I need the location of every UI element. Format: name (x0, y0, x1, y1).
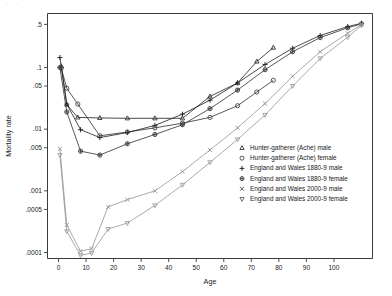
y-tick-label: .5 (37, 21, 43, 28)
x-tick-label: 20 (110, 264, 118, 271)
data-point-marker (318, 36, 322, 40)
legend-item: Hunter-gatherer (Ache) male (240, 144, 332, 152)
x-tick-label: 30 (137, 264, 145, 271)
x-tick-label: 0 (57, 264, 61, 271)
x-tick-label: 40 (165, 264, 173, 271)
x-axis-tick-labels: 0102030405060708090100 (57, 264, 340, 271)
x-axis-title: Age (204, 277, 217, 286)
y-tick-label: .05 (33, 82, 42, 89)
data-point-marker (57, 55, 62, 60)
y-tick-label: .1 (37, 64, 43, 71)
data-point-marker (207, 98, 212, 103)
data-point-marker (291, 74, 295, 78)
data-point-marker (180, 170, 184, 174)
data-point-marker (180, 123, 184, 127)
data-point-marker (240, 187, 244, 191)
legend-item: England and Wales 2000-9 female (240, 195, 348, 203)
legend-label: Hunter-gatherer (Ache) female (250, 154, 337, 162)
data-point-marker (240, 177, 244, 181)
figure-container: · · .5.1.05.01.005.001.0005.0001 0102030… (0, 0, 392, 296)
y-axis-tick-marks (44, 24, 48, 252)
data-point-marker (65, 110, 69, 114)
y-tick-label: .005 (29, 144, 42, 151)
series-line (60, 24, 362, 251)
data-point-marker (240, 166, 245, 171)
data-point-marker (153, 132, 157, 136)
x-tick-label: 90 (303, 264, 311, 271)
data-point-marker (263, 68, 267, 72)
x-tick-label: 60 (220, 264, 228, 271)
x-tick-label: 80 (275, 264, 283, 271)
data-point-marker (78, 149, 82, 153)
data-series-group (57, 21, 364, 258)
legend-item: England and Wales 2000-9 male (240, 185, 343, 193)
data-point-marker (98, 153, 102, 157)
x-tick-label: 100 (328, 264, 339, 271)
series-line (60, 23, 362, 137)
legend-label: England and Wales 1880-9 female (250, 175, 348, 183)
data-point-marker (78, 127, 83, 132)
y-tick-label: .0005 (25, 206, 42, 213)
series-line (60, 25, 362, 255)
data-point-marker (271, 45, 275, 49)
series-5 (58, 24, 364, 258)
legend-label: England and Wales 2000-9 male (250, 185, 343, 193)
data-point-marker (240, 198, 244, 202)
data-point-marker (58, 65, 62, 69)
x-tick-label: 70 (248, 264, 256, 271)
legend-item: England and Wales 1880-9 female (240, 175, 348, 183)
data-point-marker (208, 148, 212, 152)
data-point-marker (153, 189, 157, 193)
legend-label: England and Wales 2000-9 female (250, 195, 348, 203)
data-point-marker (236, 126, 240, 130)
series-line (61, 48, 273, 119)
y-axis-title: Mortality rate (4, 115, 13, 157)
data-point-marker (240, 146, 244, 150)
series-0 (59, 45, 275, 120)
data-point-marker (180, 112, 185, 117)
data-point-marker (106, 205, 110, 209)
legend-label: Hunter-gatherer (Ache) male (250, 144, 332, 152)
data-point-marker (125, 142, 129, 146)
legend-item: England and Wales 1880-9 male (240, 164, 343, 172)
x-tick-label: 50 (193, 264, 201, 271)
data-point-marker (346, 26, 350, 30)
chart-legend: Hunter-gatherer (Ache) maleHunter-gather… (240, 144, 349, 203)
x-tick-label: 10 (82, 264, 90, 271)
data-point-marker (291, 50, 295, 54)
legend-label: England and Wales 1880-9 male (250, 164, 343, 172)
data-point-marker (263, 102, 267, 106)
y-axis-tick-labels: .5.1.05.01.005.001.0005.0001 (25, 21, 42, 256)
x-axis-tick-marks (59, 259, 334, 263)
y-tick-label: .0001 (25, 249, 42, 256)
legend-item: Hunter-gatherer (Ache) female (240, 154, 337, 162)
mortality-rate-chart: .5.1.05.01.005.001.0005.0001 01020304050… (0, 0, 392, 296)
data-point-marker (208, 107, 212, 111)
data-point-marker (240, 156, 244, 160)
data-point-marker (346, 31, 350, 35)
data-point-marker (318, 50, 322, 54)
data-point-marker (235, 88, 239, 92)
y-tick-label: .001 (29, 187, 42, 194)
y-tick-label: .01 (33, 125, 42, 132)
data-point-marker (263, 62, 268, 67)
data-point-marker (125, 198, 129, 202)
